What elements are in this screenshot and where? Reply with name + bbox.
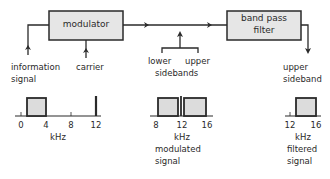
axis-unit-label: kHz bbox=[295, 132, 311, 142]
spectrum-modulated bbox=[150, 96, 213, 116]
tick-label: 0 bbox=[18, 120, 23, 130]
lower-sideband-label: lower bbox=[148, 56, 171, 66]
sidebands-bracket bbox=[162, 48, 198, 53]
filter-label-line1: band pass bbox=[227, 13, 301, 24]
tick-label: 4 bbox=[43, 120, 48, 130]
upper-sideband-band bbox=[296, 98, 316, 116]
information-signal-label-line1: information bbox=[11, 62, 60, 72]
lower-sideband-band bbox=[158, 98, 178, 116]
tick-label: 16 bbox=[311, 120, 322, 130]
information-band bbox=[27, 98, 46, 116]
filter-label-line2: filter bbox=[227, 25, 301, 36]
output-label-line2: sideband bbox=[283, 74, 322, 84]
modulator-label: modulator bbox=[49, 19, 123, 30]
tick-label: 12 bbox=[91, 120, 102, 130]
upper-sideband-band bbox=[184, 98, 206, 116]
information-signal-label-line2: signal bbox=[11, 74, 36, 84]
sidebands-caption: sidebands bbox=[155, 68, 198, 78]
upper-sideband-label: upper bbox=[185, 56, 210, 66]
information-signal-line bbox=[28, 25, 49, 55]
output-label-line1: upper bbox=[283, 62, 308, 72]
axis-unit-label: kHz bbox=[50, 132, 66, 142]
axis-unit-label: kHz bbox=[174, 132, 190, 142]
filtered-signal-caption-line2: signal bbox=[287, 156, 312, 166]
tick-label: 16 bbox=[202, 120, 213, 130]
modulated-signal-caption-line2: signal bbox=[155, 156, 180, 166]
tick-label: 12 bbox=[285, 120, 296, 130]
tick-label: 8 bbox=[68, 120, 73, 130]
tick-label: 12 bbox=[177, 120, 188, 130]
tick-label: 8 bbox=[153, 120, 158, 130]
spectrum-input bbox=[15, 96, 101, 116]
filter-output-line bbox=[301, 25, 308, 50]
carrier-label: carrier bbox=[76, 62, 104, 72]
spectrum-filtered bbox=[285, 98, 321, 116]
modulated-signal-caption-line1: modulated bbox=[155, 144, 201, 154]
filtered-signal-caption-line1: filtered bbox=[287, 144, 317, 154]
